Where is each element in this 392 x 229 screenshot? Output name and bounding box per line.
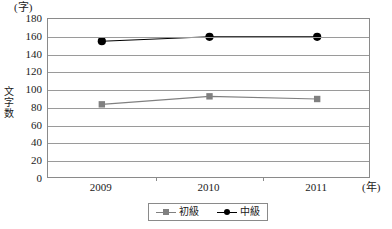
- y-axis-tick-labels: 180160140120100806040200: [0, 0, 46, 229]
- data-point-square-marker[interactable]: [99, 101, 105, 107]
- data-point-square-marker[interactable]: [206, 93, 212, 99]
- series-layer: [48, 19, 371, 179]
- legend-item-intermediate[interactable]: 中級: [217, 206, 260, 218]
- y-axis-tick-label: 160: [0, 30, 46, 41]
- x-axis-tick-label: 2010: [198, 181, 220, 193]
- legend-item-beginner[interactable]: 初級: [156, 206, 199, 218]
- x-axis-unit-label: (年): [362, 181, 380, 193]
- legend-swatch-square-icon: [156, 207, 176, 217]
- legend-label-beginner: 初級: [179, 206, 199, 218]
- x-axis-tick-label: 2011: [305, 181, 327, 193]
- x-axis-tick-label: 2009: [90, 181, 112, 193]
- gridline: [48, 55, 369, 56]
- gridline: [48, 108, 369, 109]
- y-axis-tick-label: 180: [0, 13, 46, 24]
- x-axis-tick-mark: [263, 177, 264, 181]
- y-axis-tick-label: 40: [0, 137, 46, 148]
- gridline: [48, 72, 369, 73]
- legend-swatch-circle-icon: [217, 207, 237, 217]
- gridline: [48, 143, 369, 144]
- gridline: [48, 161, 369, 162]
- y-axis-tick-label: 80: [0, 101, 46, 112]
- plot-area: [47, 18, 370, 178]
- y-axis-tick-label: 0: [0, 173, 46, 184]
- data-point-circle-marker[interactable]: [98, 37, 106, 45]
- data-point-square-marker[interactable]: [314, 96, 320, 102]
- y-axis-tick-label: 20: [0, 155, 46, 166]
- y-axis-tick-label: 60: [0, 119, 46, 130]
- gridline: [48, 37, 369, 38]
- legend-label-intermediate: 中級: [240, 206, 260, 218]
- x-axis-tick-mark: [156, 177, 157, 181]
- y-axis-tick-label: 140: [0, 48, 46, 59]
- gridline: [48, 90, 369, 91]
- gridline: [48, 126, 369, 127]
- chart-legend: 初級 中級: [148, 203, 268, 221]
- line-chart: (字) 文 字 数 180160140120100806040200 20092…: [0, 0, 392, 229]
- y-axis-tick-label: 120: [0, 66, 46, 77]
- y-axis-tick-label: 100: [0, 84, 46, 95]
